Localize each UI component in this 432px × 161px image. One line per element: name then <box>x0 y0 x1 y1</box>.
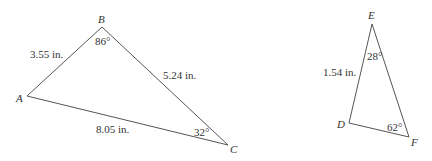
triangle-diagram: A B C 3.55 in. 5.24 in. 8.05 in. 86° 32°… <box>0 0 432 161</box>
vertex-a-label: A <box>15 92 23 104</box>
angle-e-measure: 28° <box>367 50 382 62</box>
vertex-c-label: C <box>230 143 238 155</box>
side-ab-length: 3.55 in. <box>30 48 64 60</box>
triangle-abc: A B C 3.55 in. 5.24 in. 8.05 in. 86° 32° <box>15 13 238 155</box>
vertex-f-label: F <box>410 136 418 148</box>
angle-f-measure: 62° <box>387 121 402 133</box>
vertex-b-label: B <box>98 13 105 25</box>
angle-c-measure: 32° <box>194 126 209 138</box>
angle-b-measure: 86° <box>95 35 110 47</box>
side-bc-length: 5.24 in. <box>163 69 197 81</box>
triangle-def: D E F 1.54 in. 28° 62° <box>323 9 418 148</box>
side-ac-length: 8.05 in. <box>96 123 130 135</box>
vertex-d-label: D <box>336 118 345 130</box>
side-de-length: 1.54 in. <box>323 66 357 78</box>
vertex-e-label: E <box>367 9 375 21</box>
